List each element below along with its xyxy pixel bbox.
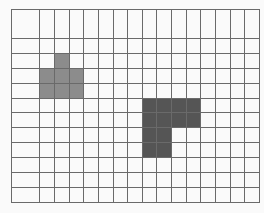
grid-cell[interactable] [11, 113, 27, 128]
grid-cell[interactable] [216, 99, 231, 114]
grid-cell[interactable] [99, 99, 114, 114]
grid-cell[interactable] [201, 173, 216, 188]
grid-cell[interactable] [172, 188, 187, 203]
grid-cell[interactable] [70, 128, 85, 143]
grid-cell[interactable] [99, 188, 114, 203]
grid-cell[interactable] [172, 54, 187, 69]
grid-cell[interactable] [114, 113, 129, 128]
grid-cell[interactable] [231, 99, 246, 114]
grid-cell[interactable] [55, 24, 70, 39]
grid-cell[interactable] [114, 24, 129, 39]
grid-cell[interactable] [26, 69, 41, 84]
grid-cell[interactable] [245, 158, 260, 173]
grid-cell[interactable] [11, 99, 27, 114]
grid-cell[interactable] [187, 158, 202, 173]
grid-cell[interactable] [70, 143, 85, 158]
grid-cell[interactable] [114, 173, 129, 188]
grid-cell[interactable] [114, 54, 129, 69]
grid-cell[interactable] [201, 143, 216, 158]
grid-cell[interactable] [216, 24, 231, 39]
grid-cell[interactable] [84, 24, 99, 39]
grid-cell[interactable] [157, 84, 172, 99]
grid-cell[interactable] [187, 84, 202, 99]
grid-cell[interactable] [245, 54, 260, 69]
grid-cell[interactable] [55, 9, 70, 25]
grid-cell[interactable] [55, 39, 70, 54]
grid-cell[interactable] [231, 173, 246, 188]
filled-cell[interactable] [143, 113, 158, 128]
grid-cell[interactable] [70, 173, 85, 188]
grid-cell[interactable] [201, 69, 216, 84]
grid-cell[interactable] [157, 173, 172, 188]
grid-cell[interactable] [172, 69, 187, 84]
grid-cell[interactable] [143, 24, 158, 39]
grid-cell[interactable] [201, 9, 216, 25]
grid-cell[interactable] [128, 99, 143, 114]
grid-cell[interactable] [172, 84, 187, 99]
grid-cell[interactable] [231, 113, 246, 128]
grid-cell[interactable] [143, 173, 158, 188]
grid-cell[interactable] [128, 24, 143, 39]
grid-cell[interactable] [187, 54, 202, 69]
grid-cell[interactable] [84, 128, 99, 143]
grid-cell[interactable] [84, 188, 99, 203]
grid-cell[interactable] [231, 188, 246, 203]
grid-cell[interactable] [26, 128, 41, 143]
grid-cell[interactable] [84, 39, 99, 54]
grid-cell[interactable] [216, 173, 231, 188]
grid-cell[interactable] [84, 69, 99, 84]
grid-cell[interactable] [26, 84, 41, 99]
grid-cell[interactable] [157, 39, 172, 54]
grid-cell[interactable] [201, 24, 216, 39]
grid-cell[interactable] [187, 24, 202, 39]
grid-cell[interactable] [84, 99, 99, 114]
grid-cell[interactable] [99, 113, 114, 128]
grid-cell[interactable] [216, 128, 231, 143]
grid-cell[interactable] [11, 24, 27, 39]
grid-cell[interactable] [245, 24, 260, 39]
filled-cell[interactable] [55, 69, 70, 84]
filled-cell[interactable] [172, 113, 187, 128]
grid-cell[interactable] [11, 143, 27, 158]
grid-cell[interactable] [216, 188, 231, 203]
grid-cell[interactable] [70, 188, 85, 203]
grid-cell[interactable] [99, 143, 114, 158]
grid-cell[interactable] [128, 158, 143, 173]
grid-cell[interactable] [143, 188, 158, 203]
grid-cell[interactable] [70, 9, 85, 25]
grid-cell[interactable] [216, 39, 231, 54]
grid-cell[interactable] [201, 128, 216, 143]
grid-cell[interactable] [99, 158, 114, 173]
grid-cell[interactable] [187, 39, 202, 54]
grid-cell[interactable] [128, 113, 143, 128]
grid-cell[interactable] [40, 143, 55, 158]
grid-cell[interactable] [99, 24, 114, 39]
grid-cell[interactable] [143, 158, 158, 173]
filled-cell[interactable] [157, 99, 172, 114]
filled-cell[interactable] [157, 128, 172, 143]
grid-cell[interactable] [40, 158, 55, 173]
filled-cell[interactable] [143, 99, 158, 114]
grid-cell[interactable] [11, 173, 27, 188]
grid-cell[interactable] [70, 113, 85, 128]
grid-cell[interactable] [245, 128, 260, 143]
grid-cell[interactable] [128, 9, 143, 25]
grid-cell[interactable] [157, 69, 172, 84]
grid-cell[interactable] [114, 128, 129, 143]
grid-cell[interactable] [143, 39, 158, 54]
grid-cell[interactable] [99, 9, 114, 25]
filled-cell[interactable] [55, 84, 70, 99]
grid-cell[interactable] [70, 24, 85, 39]
grid-cell[interactable] [245, 143, 260, 158]
filled-cell[interactable] [143, 128, 158, 143]
grid-cell[interactable] [245, 188, 260, 203]
grid-cell[interactable] [157, 24, 172, 39]
grid-cell[interactable] [99, 84, 114, 99]
grid-cell[interactable] [187, 143, 202, 158]
grid-cell[interactable] [84, 54, 99, 69]
grid-cell[interactable] [245, 84, 260, 99]
grid-cell[interactable] [11, 54, 27, 69]
grid-cell[interactable] [172, 158, 187, 173]
grid-cell[interactable] [84, 173, 99, 188]
grid-cell[interactable] [99, 39, 114, 54]
